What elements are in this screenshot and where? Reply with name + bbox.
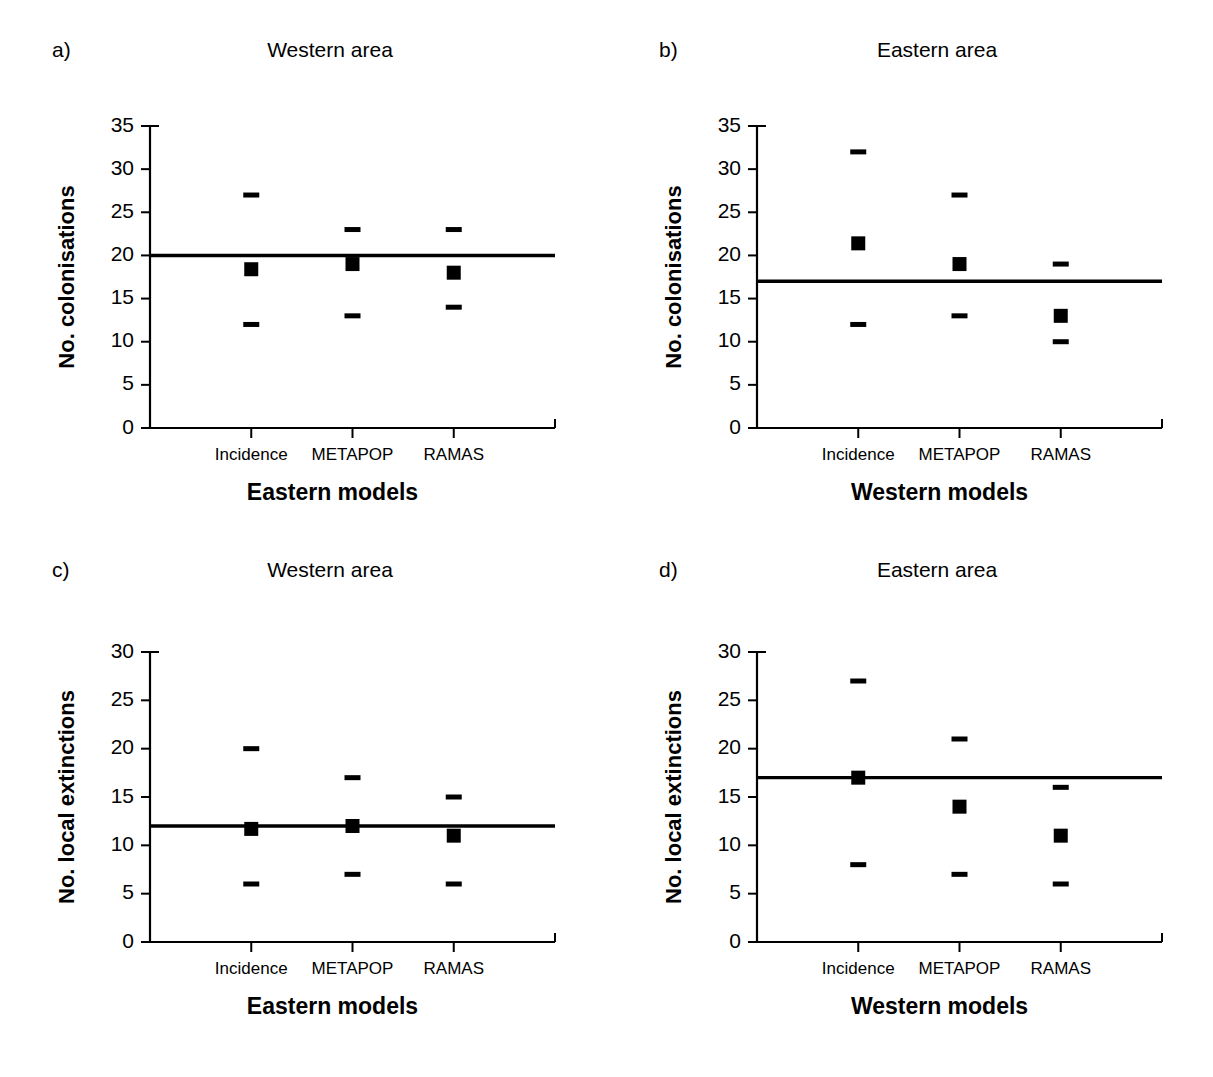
x-tick-label: RAMAS xyxy=(424,959,484,978)
y-tick-label: 5 xyxy=(122,371,134,394)
y-tick-label: 15 xyxy=(718,784,741,807)
y-tick-label: 0 xyxy=(122,415,134,438)
x-tick-label: METAPOP xyxy=(312,959,394,978)
x-tick-label: Incidence xyxy=(822,959,895,978)
mean-data-point xyxy=(244,822,258,836)
panel-c: c) Western area 051015202530IncidenceMET… xyxy=(0,520,606,1058)
plot-svg-b: 05101520253035IncidenceMETAPOPRAMASNo. c… xyxy=(607,0,1213,538)
mean-data-point xyxy=(346,819,360,833)
y-tick-label: 30 xyxy=(111,156,134,179)
y-tick-label: 25 xyxy=(111,199,134,222)
y-tick-label: 0 xyxy=(122,929,134,952)
y-tick-label: 10 xyxy=(718,328,741,351)
y-tick-label: 10 xyxy=(111,832,134,855)
panel-a: a) Western area 05101520253035IncidenceM… xyxy=(0,0,606,538)
y-tick-label: 20 xyxy=(718,242,741,265)
mean-data-point xyxy=(244,262,258,276)
y-tick-label: 15 xyxy=(718,285,741,308)
x-tick-label: RAMAS xyxy=(1031,959,1091,978)
plot-area-a: 05101520253035IncidenceMETAPOPRAMASNo. c… xyxy=(0,0,606,538)
x-axis-title: Eastern models xyxy=(247,479,418,505)
mean-data-point xyxy=(447,829,461,843)
y-tick-label: 35 xyxy=(111,113,134,136)
x-axis-title: Western models xyxy=(851,479,1028,505)
y-tick-label: 35 xyxy=(718,113,741,136)
y-tick-label: 10 xyxy=(111,328,134,351)
y-tick-label: 20 xyxy=(111,242,134,265)
x-tick-label: RAMAS xyxy=(424,445,484,464)
y-tick-label: 5 xyxy=(122,880,134,903)
x-axis-title: Eastern models xyxy=(247,993,418,1019)
y-tick-label: 25 xyxy=(718,687,741,710)
panel-d: d) Eastern area 051015202530IncidenceMET… xyxy=(607,520,1213,1058)
y-tick-label: 25 xyxy=(718,199,741,222)
y-tick-label: 5 xyxy=(729,371,741,394)
mean-data-point xyxy=(447,266,461,280)
mean-data-point xyxy=(1054,829,1068,843)
plot-area-b: 05101520253035IncidenceMETAPOPRAMASNo. c… xyxy=(607,0,1213,538)
x-tick-label: Incidence xyxy=(822,445,895,464)
y-axis-title: No. colonisations xyxy=(661,185,686,368)
y-tick-label: 30 xyxy=(111,639,134,662)
x-tick-label: METAPOP xyxy=(919,445,1001,464)
y-tick-label: 15 xyxy=(111,285,134,308)
plot-svg-d: 051015202530IncidenceMETAPOPRAMASNo. loc… xyxy=(607,520,1213,1058)
panel-b: b) Eastern area 05101520253035IncidenceM… xyxy=(607,0,1213,538)
mean-data-point xyxy=(1054,309,1068,323)
plot-svg-c: 051015202530IncidenceMETAPOPRAMASNo. loc… xyxy=(0,520,606,1058)
mean-data-point xyxy=(346,257,360,271)
y-axis-title: No. local extinctions xyxy=(54,690,79,904)
mean-data-point xyxy=(851,771,865,785)
y-tick-label: 0 xyxy=(729,415,741,438)
x-tick-label: Incidence xyxy=(215,959,288,978)
y-tick-label: 30 xyxy=(718,156,741,179)
y-tick-label: 0 xyxy=(729,929,741,952)
y-tick-label: 10 xyxy=(718,832,741,855)
y-tick-label: 25 xyxy=(111,687,134,710)
y-tick-label: 20 xyxy=(111,735,134,758)
plot-area-c: 051015202530IncidenceMETAPOPRAMASNo. loc… xyxy=(0,520,606,1058)
plot-svg-a: 05101520253035IncidenceMETAPOPRAMASNo. c… xyxy=(0,0,606,538)
y-axis-title: No. colonisations xyxy=(54,185,79,368)
mean-data-point xyxy=(953,257,967,271)
x-tick-label: METAPOP xyxy=(312,445,394,464)
x-axis-title: Western models xyxy=(851,993,1028,1019)
x-tick-label: Incidence xyxy=(215,445,288,464)
mean-data-point xyxy=(851,236,865,250)
figure-canvas: a) Western area 05101520253035IncidenceM… xyxy=(0,0,1213,1077)
mean-data-point xyxy=(953,800,967,814)
x-tick-label: METAPOP xyxy=(919,959,1001,978)
plot-area-d: 051015202530IncidenceMETAPOPRAMASNo. loc… xyxy=(607,520,1213,1058)
y-tick-label: 20 xyxy=(718,735,741,758)
y-tick-label: 15 xyxy=(111,784,134,807)
y-tick-label: 5 xyxy=(729,880,741,903)
y-tick-label: 30 xyxy=(718,639,741,662)
y-axis-title: No. local extinctions xyxy=(661,690,686,904)
x-tick-label: RAMAS xyxy=(1031,445,1091,464)
